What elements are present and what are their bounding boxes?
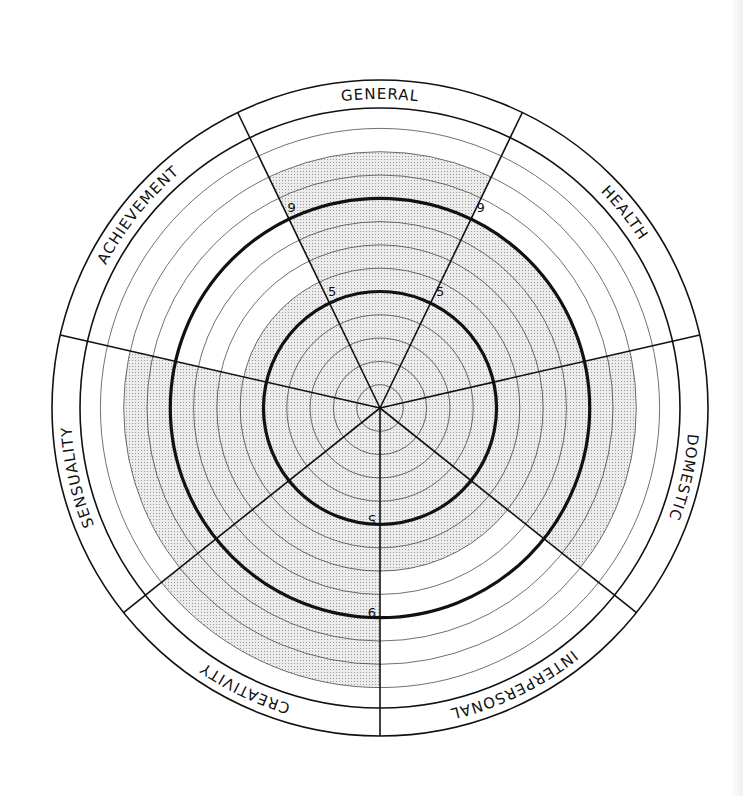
scale-label-9: 9 xyxy=(368,605,376,620)
life-wheel-chart: INTERPERSONALDOMESTICHEALTHGENERALACHIEV… xyxy=(0,0,743,796)
scale-label-5: 5 xyxy=(436,284,444,299)
sector-label-achievement: ACHIEVEMENT xyxy=(94,162,183,267)
scale-label-9: 9 xyxy=(288,200,296,215)
scale-label-5: 5 xyxy=(328,284,336,299)
sector-label-domestic: DOMESTIC xyxy=(665,433,702,523)
sector-label-sensuality: SENSUALITY xyxy=(58,426,98,531)
page-edge-shadow xyxy=(731,0,743,796)
sector-label-general: GENERAL xyxy=(340,85,420,105)
scale-label-9: 9 xyxy=(476,200,484,215)
scale-label-5: 5 xyxy=(368,512,376,527)
sector-label-interpersonal: INTERPERSONAL xyxy=(448,647,581,723)
